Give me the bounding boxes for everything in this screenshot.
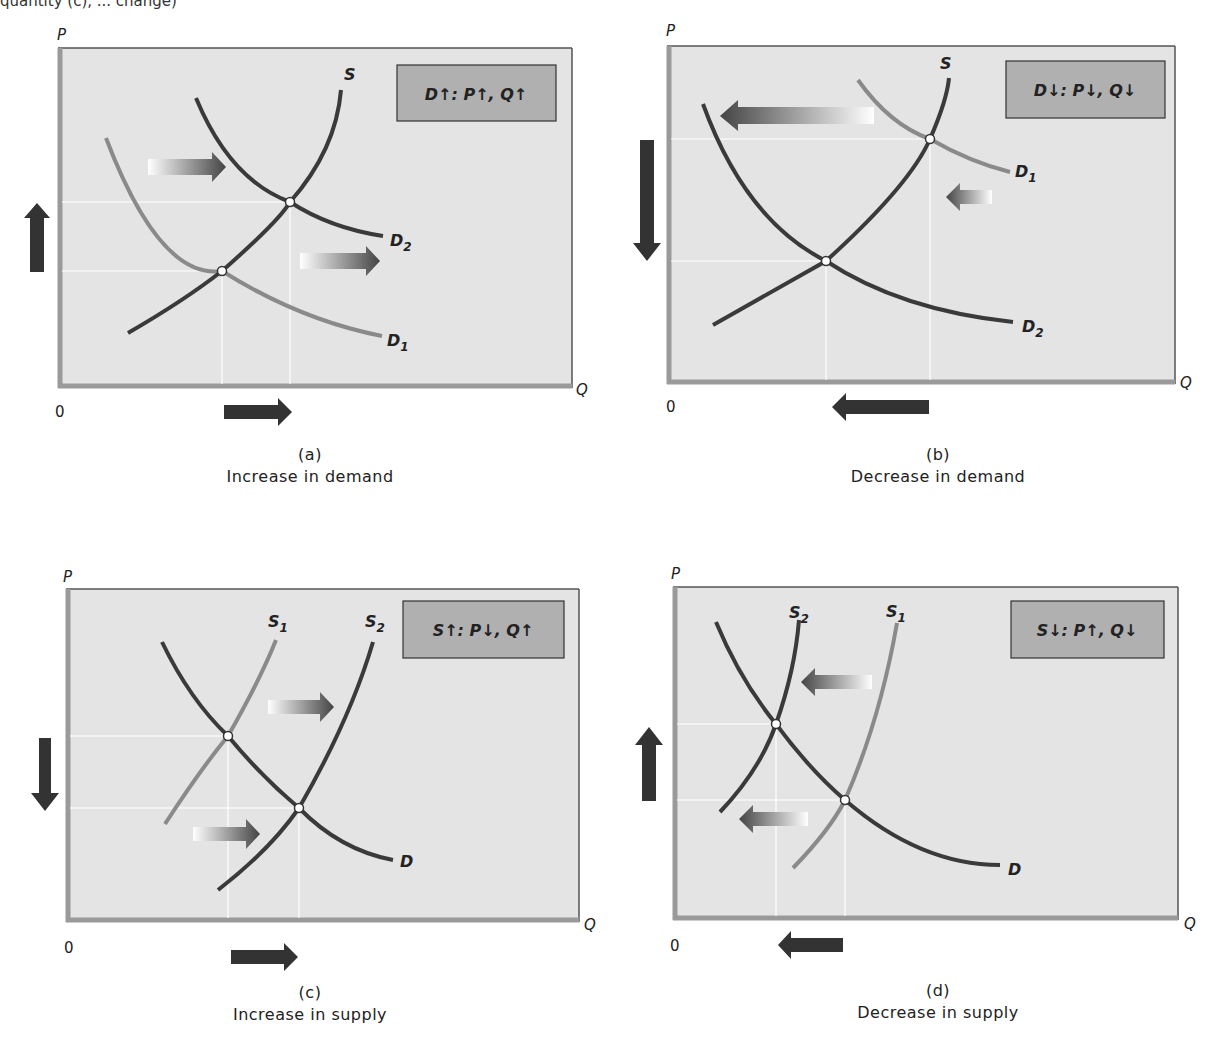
chart-d-decrease-in-supply: S2 S1 D S↓: P↑, Q↓ P Q 0 bbox=[635, 565, 1196, 959]
caption-b: (b) Decrease in demand bbox=[738, 444, 1138, 488]
summary-box-text: S↑: P↓, Q↑ bbox=[433, 621, 534, 640]
y-axis-label: P bbox=[671, 565, 681, 583]
chart-b-decrease-in-demand: S D1 D2 D↓: P↓, Q↓ P Q 0 bbox=[633, 22, 1192, 421]
price-down-arrow-icon bbox=[31, 738, 59, 811]
quantity-right-arrow-icon bbox=[231, 943, 298, 971]
price-up-arrow-icon bbox=[635, 727, 663, 801]
panel-label: (d) bbox=[738, 980, 1138, 1002]
x-axis-label: Q bbox=[576, 381, 588, 399]
panel-title: Decrease in supply bbox=[738, 1002, 1138, 1024]
origin-label: 0 bbox=[666, 398, 676, 416]
x-axis-label: Q bbox=[1180, 374, 1192, 392]
equilibrium-point bbox=[772, 720, 781, 729]
curve-label-s: S bbox=[344, 65, 356, 84]
equilibrium-point bbox=[286, 198, 295, 207]
x-axis-label: Q bbox=[584, 916, 596, 934]
panel-label: (c) bbox=[110, 982, 510, 1004]
equilibrium-point bbox=[822, 257, 831, 266]
summary-box-text: S↓: P↑, Q↓ bbox=[1037, 621, 1138, 640]
origin-label: 0 bbox=[670, 937, 680, 955]
panel-title: Decrease in demand bbox=[738, 466, 1138, 488]
curve-label-s: S bbox=[940, 54, 952, 73]
quantity-right-arrow-icon bbox=[224, 398, 292, 426]
curve-label-d: D bbox=[1008, 860, 1021, 879]
summary-box-text: D↓: P↓, Q↓ bbox=[1034, 81, 1136, 100]
equilibrium-point bbox=[295, 804, 304, 813]
equilibrium-point bbox=[841, 796, 850, 805]
price-up-arrow-icon bbox=[24, 203, 50, 272]
panel-title: Increase in supply bbox=[110, 1004, 510, 1026]
origin-label: 0 bbox=[64, 939, 74, 957]
x-axis-label: Q bbox=[1184, 915, 1196, 933]
caption-c: (c) Increase in supply bbox=[110, 982, 510, 1026]
equilibrium-point bbox=[218, 267, 227, 276]
summary-box-text: D↑: P↑, Q↑ bbox=[425, 85, 527, 104]
curve-label-d: D bbox=[400, 852, 413, 871]
chart-a-increase-in-demand: S D2 D1 D↑: P↑, Q↑ P Q 0 bbox=[24, 26, 588, 426]
y-axis-label: P bbox=[666, 22, 676, 40]
equilibrium-point bbox=[926, 135, 935, 144]
quantity-left-arrow-icon bbox=[832, 393, 929, 421]
caption-a: (a) Increase in demand bbox=[110, 444, 510, 488]
y-axis-label: P bbox=[63, 568, 73, 586]
equilibrium-point bbox=[224, 732, 233, 741]
chart-c-increase-in-supply: S1 S2 D S↑: P↓, Q↑ P Q 0 bbox=[31, 568, 596, 971]
panel-title: Increase in demand bbox=[110, 466, 510, 488]
y-axis-label: P bbox=[57, 26, 67, 44]
panel-label: (a) bbox=[110, 444, 510, 466]
caption-d: (d) Decrease in supply bbox=[738, 980, 1138, 1024]
price-down-arrow-icon bbox=[633, 140, 661, 261]
quantity-left-arrow-icon bbox=[778, 931, 843, 959]
panel-label: (b) bbox=[738, 444, 1138, 466]
origin-label: 0 bbox=[55, 403, 65, 421]
